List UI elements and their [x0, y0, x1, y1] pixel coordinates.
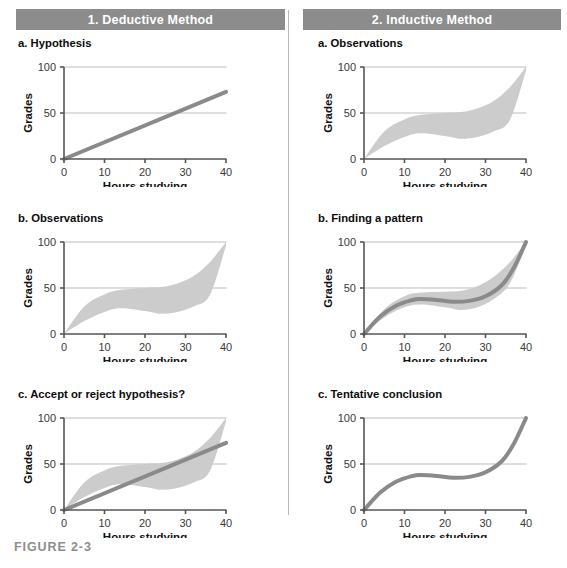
x-axis-title: Hours studying: [403, 180, 487, 187]
x-tick-label-20: 20: [139, 517, 151, 529]
x-tick-label-30: 30: [479, 517, 491, 529]
x-tick-label-40: 40: [520, 166, 532, 178]
x-tick-label-40: 40: [520, 341, 532, 353]
x-tick-label-30: 30: [479, 166, 491, 178]
y-tick-label-100: 100: [38, 412, 56, 424]
panel-inductive-a: a. Observations050100010203040Hours stud…: [318, 37, 567, 189]
x-tick-label-30: 30: [179, 341, 191, 353]
y-tick-label-0: 0: [50, 328, 56, 340]
panel-inductive-c: c. Tentative conclusion050100010203040Ho…: [318, 388, 567, 540]
y-tick-label-0: 0: [350, 504, 356, 516]
panel-deductive-a-plot: 050100010203040Hours studyingGrades: [18, 55, 268, 185]
figure-caption: FIGURE 2-3: [14, 540, 92, 554]
chart-deductive-c-accept-reject: 050100010203040Hours studyingGrades: [18, 406, 268, 538]
x-axis-title: Hours studying: [403, 531, 487, 538]
column-divider: [288, 10, 289, 515]
panel-inductive-a-title: a. Observations: [318, 37, 403, 49]
y-tick-label-50: 50: [44, 458, 56, 470]
column-header-inductive: 2. Inductive Method: [303, 9, 561, 30]
x-tick-label-20: 20: [439, 166, 451, 178]
x-tick-label-30: 30: [179, 166, 191, 178]
figure-2-3: 1. Deductive Method 2. Inductive Method …: [0, 0, 567, 568]
y-tick-label-100: 100: [338, 412, 356, 424]
x-tick-label-10: 10: [398, 517, 410, 529]
x-tick-label-0: 0: [61, 517, 67, 529]
panel-inductive-c-title: c. Tentative conclusion: [318, 388, 442, 400]
x-tick-label-0: 0: [61, 166, 67, 178]
panel-deductive-b-title: b. Observations: [18, 212, 103, 224]
y-tick-label-0: 0: [50, 153, 56, 165]
y-tick-label-50: 50: [344, 107, 356, 119]
y-axis-title: Grades: [322, 268, 334, 308]
column-header-deductive-label: 1. Deductive Method: [88, 13, 213, 27]
x-tick-label-10: 10: [98, 517, 110, 529]
y-tick-label-50: 50: [344, 282, 356, 294]
x-tick-label-30: 30: [479, 341, 491, 353]
x-axis-title: Hours studying: [103, 531, 187, 538]
y-tick-label-100: 100: [38, 236, 56, 248]
chart-inductive-c-tentative-conclusion: 050100010203040Hours studyingGrades: [318, 406, 567, 538]
x-tick-label-10: 10: [398, 166, 410, 178]
panel-deductive-a-title: a. Hypothesis: [18, 37, 91, 49]
x-tick-label-30: 30: [179, 517, 191, 529]
y-tick-label-0: 0: [350, 153, 356, 165]
y-tick-label-100: 100: [338, 236, 356, 248]
x-tick-label-20: 20: [439, 517, 451, 529]
chart-deductive-a-hypothesis: 050100010203040Hours studyingGrades: [18, 55, 268, 187]
y-tick-label-100: 100: [338, 61, 356, 73]
panel-deductive-c-plot: 050100010203040Hours studyingGrades: [18, 406, 268, 536]
panel-inductive-b-title: b. Finding a pattern: [318, 212, 423, 224]
y-tick-label-50: 50: [344, 458, 356, 470]
panel-inductive-b-plot: 050100010203040Hours studyingGrades: [318, 230, 567, 360]
y-axis-title: Grades: [22, 93, 34, 133]
panel-deductive-b: b. Observations050100010203040Hours stud…: [18, 212, 268, 364]
x-tick-label-10: 10: [98, 341, 110, 353]
panel-deductive-c-title: c. Accept or reject hypothesis?: [18, 388, 185, 400]
panel-deductive-b-plot: 050100010203040Hours studyingGrades: [18, 230, 268, 360]
y-tick-label-50: 50: [44, 107, 56, 119]
panel-inductive-a-plot: 050100010203040Hours studyingGrades: [318, 55, 567, 185]
panel-deductive-c: c. Accept or reject hypothesis?050100010…: [18, 388, 268, 540]
x-tick-label-0: 0: [61, 341, 67, 353]
panel-inductive-c-plot: 050100010203040Hours studyingGrades: [318, 406, 567, 536]
chart-inductive-b-finding-pattern: 050100010203040Hours studyingGrades: [318, 230, 567, 362]
column-header-inductive-label: 2. Inductive Method: [372, 13, 492, 27]
x-tick-label-40: 40: [520, 517, 532, 529]
x-tick-label-10: 10: [98, 166, 110, 178]
x-tick-label-0: 0: [361, 341, 367, 353]
x-tick-label-10: 10: [398, 341, 410, 353]
x-tick-label-40: 40: [220, 341, 232, 353]
x-tick-label-20: 20: [139, 341, 151, 353]
panel-deductive-a: a. Hypothesis050100010203040Hours studyi…: [18, 37, 268, 189]
y-tick-label-0: 0: [50, 504, 56, 516]
y-tick-label-100: 100: [38, 61, 56, 73]
x-axis-title: Hours studying: [103, 180, 187, 187]
x-tick-label-20: 20: [439, 341, 451, 353]
x-tick-label-40: 40: [220, 517, 232, 529]
y-axis-title: Grades: [322, 93, 334, 133]
y-axis-title: Grades: [22, 268, 34, 308]
y-axis-title: Grades: [22, 444, 34, 484]
x-tick-label-0: 0: [361, 517, 367, 529]
x-tick-label-20: 20: [139, 166, 151, 178]
y-tick-label-0: 0: [350, 328, 356, 340]
column-header-deductive: 1. Deductive Method: [16, 9, 285, 30]
chart-inductive-a-observations: 050100010203040Hours studyingGrades: [318, 55, 567, 187]
x-axis-title: Hours studying: [403, 355, 487, 362]
curve-hypothesis-line: [64, 92, 226, 159]
x-tick-label-0: 0: [361, 166, 367, 178]
y-tick-label-50: 50: [44, 282, 56, 294]
x-axis-title: Hours studying: [103, 355, 187, 362]
chart-deductive-b-observations: 050100010203040Hours studyingGrades: [18, 230, 268, 362]
panel-inductive-b: b. Finding a pattern050100010203040Hours…: [318, 212, 567, 364]
x-tick-label-40: 40: [220, 166, 232, 178]
y-axis-title: Grades: [322, 444, 334, 484]
